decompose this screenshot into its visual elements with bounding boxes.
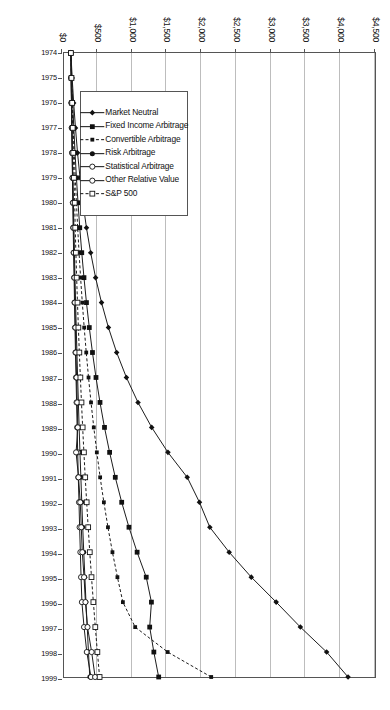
data-point — [149, 600, 154, 605]
year-tick — [58, 554, 62, 555]
data-point — [97, 675, 102, 680]
data-point — [209, 675, 213, 679]
year-tick — [58, 103, 62, 104]
legend-marker-icon — [80, 105, 106, 118]
data-point — [89, 575, 94, 580]
data-point — [93, 625, 98, 630]
data-point — [90, 164, 95, 169]
value-tick-label: $3,500 — [301, 17, 311, 42]
legend-marker-icon — [80, 132, 106, 145]
data-point — [69, 51, 74, 56]
data-point — [90, 192, 95, 197]
data-point — [90, 178, 95, 183]
data-point — [74, 275, 79, 280]
year-tick-label: 1992 — [41, 498, 57, 507]
value-tick-label: $1,000 — [128, 17, 138, 42]
data-point — [84, 300, 89, 305]
year-tick-label: 1986 — [41, 348, 57, 357]
data-point — [76, 325, 81, 330]
data-point — [106, 325, 112, 331]
data-point — [90, 350, 95, 355]
data-point — [91, 138, 95, 142]
data-point — [144, 575, 149, 580]
data-point — [135, 400, 141, 406]
year-tick — [58, 429, 62, 430]
data-point — [114, 350, 120, 356]
data-point — [127, 525, 132, 530]
year-tick — [58, 353, 62, 354]
legend-marker-icon — [80, 146, 106, 159]
data-point — [82, 326, 86, 330]
data-point — [87, 325, 92, 330]
data-point — [121, 600, 125, 604]
year-tick — [58, 278, 62, 279]
year-tick-label: 1978 — [41, 148, 57, 157]
year-tick — [58, 53, 62, 54]
value-tick-label: $0 — [58, 33, 68, 42]
chart-stage: $0$500$1,000$1,500$2,000$2,500$3,000$3,5… — [0, 0, 390, 710]
data-point — [135, 550, 140, 555]
year-tick-label: 1976 — [41, 98, 57, 107]
data-point — [74, 450, 79, 455]
value-tick-label: $4,500 — [371, 17, 381, 42]
value-tick-label: $4,000 — [336, 17, 346, 42]
data-point — [83, 600, 88, 605]
data-point — [87, 550, 92, 555]
legend-marker-icon — [80, 159, 106, 172]
legend-item[interactable]: Statistical Arbitrage — [80, 159, 189, 173]
data-point — [85, 624, 90, 629]
data-point — [78, 500, 83, 505]
data-point — [75, 425, 80, 430]
year-tick — [58, 303, 62, 304]
legend-item-label: Statistical Arbitrage — [106, 161, 175, 171]
year-tick-label: 1989 — [41, 423, 57, 432]
legend-item[interactable]: Other Relative Value — [80, 173, 189, 187]
data-point — [107, 450, 112, 455]
chart-page: $0$500$1,000$1,500$2,000$2,500$3,000$3,5… — [0, 0, 390, 710]
data-point — [84, 351, 88, 355]
legend-item-label: Fixed Income Arbitrage — [106, 120, 189, 130]
year-tick — [58, 654, 62, 655]
year-tick — [58, 253, 62, 254]
legend-item-label: Market Neutral — [106, 107, 159, 117]
year-tick-label: 1987 — [41, 373, 57, 382]
year-tick — [58, 78, 62, 79]
data-point — [95, 450, 99, 454]
legend-item[interactable]: Fixed Income Arbitrage — [80, 119, 189, 133]
data-point — [102, 425, 107, 430]
year-tick — [58, 529, 62, 530]
year-tick-label: 1982 — [41, 248, 57, 257]
data-point — [88, 250, 94, 256]
legend-item[interactable]: Market Neutral — [80, 105, 189, 119]
data-point — [87, 376, 91, 380]
year-tick-label: 1988 — [41, 398, 57, 407]
data-point — [147, 625, 152, 630]
data-point — [98, 475, 102, 479]
legend-item-label: Convertible Arbitrage — [106, 134, 181, 144]
year-tick — [58, 679, 62, 680]
data-point — [94, 375, 99, 380]
data-point — [84, 500, 89, 505]
data-point — [90, 124, 95, 129]
legend-item[interactable]: Risk Arbitrage — [80, 146, 189, 160]
legend-item[interactable]: S&P 500 — [80, 186, 189, 200]
data-point — [79, 400, 84, 405]
value-tick-label: $2,500 — [232, 17, 242, 42]
data-point — [106, 525, 110, 529]
year-tick — [58, 454, 62, 455]
legend-item[interactable]: Convertible Arbitrage — [80, 132, 189, 146]
data-point — [84, 225, 90, 231]
year-tick — [58, 629, 62, 630]
year-tick — [58, 228, 62, 229]
data-point — [89, 649, 94, 654]
legend-items: Market NeutralFixed Income ArbitrageConv… — [80, 105, 189, 200]
data-point — [98, 400, 103, 405]
data-point — [113, 475, 118, 480]
data-point — [83, 475, 88, 480]
year-tick — [58, 203, 62, 204]
year-tick — [58, 153, 62, 154]
data-point — [76, 475, 81, 480]
year-tick-label: 1985 — [41, 323, 57, 332]
legend-marker-icon — [80, 186, 106, 199]
plot-area: Market NeutralFixed Income ArbitrageConv… — [63, 52, 376, 678]
